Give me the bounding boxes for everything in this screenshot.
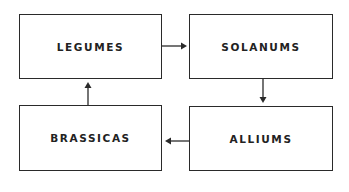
arrow-left-icon: [165, 138, 189, 145]
arrow-down-icon: [260, 79, 267, 103]
arrow-right-icon: [162, 43, 187, 50]
edges-layer: [0, 0, 349, 192]
arrow-up-icon: [85, 82, 92, 105]
